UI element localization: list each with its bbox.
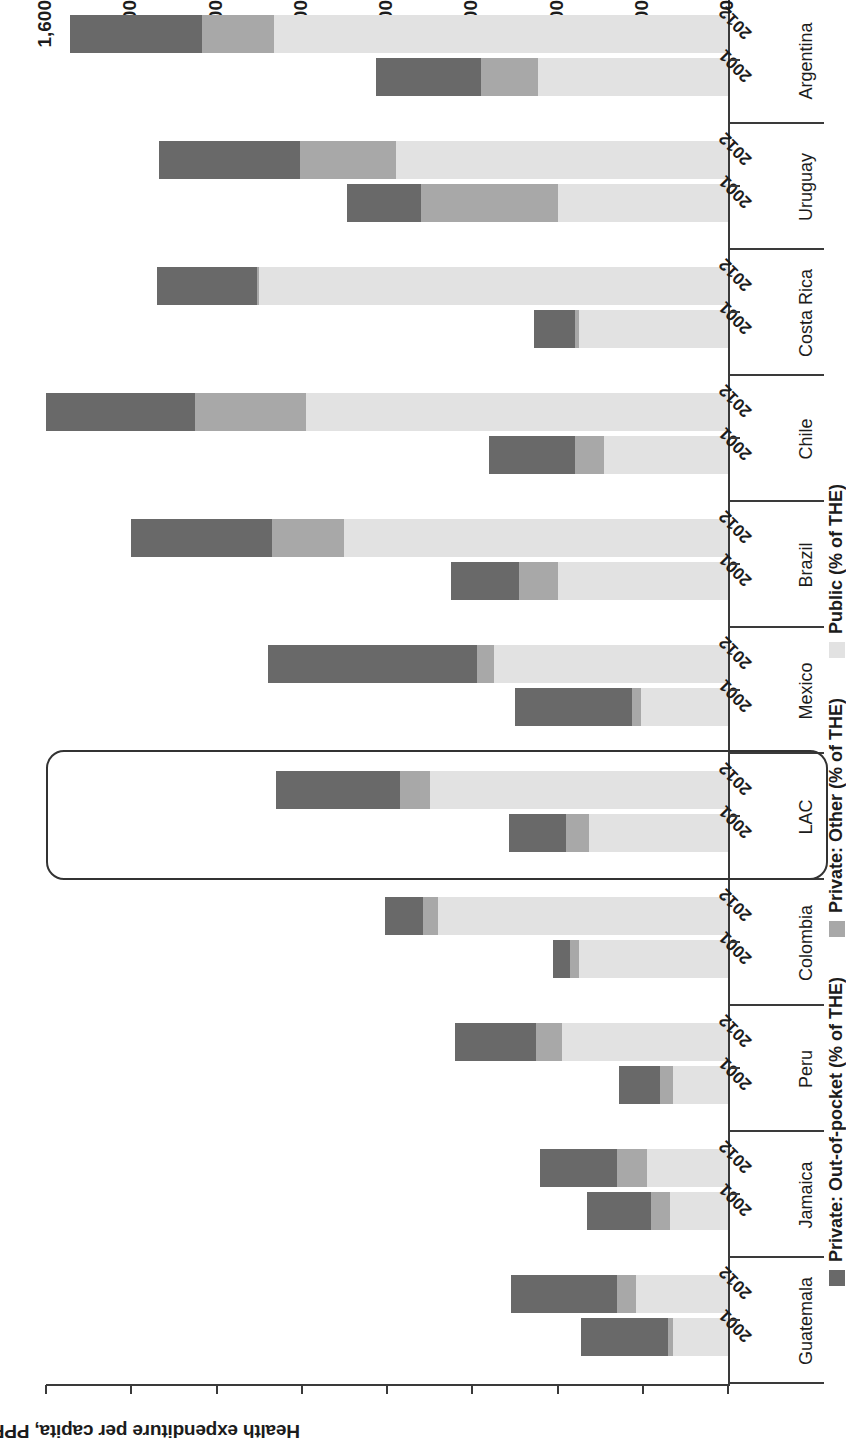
bar-segment-oth <box>272 519 344 557</box>
bar-segment-pub <box>579 940 728 978</box>
bar-segment-oth <box>423 897 438 935</box>
legend-item-other: Private: Other (% of THE) <box>826 698 847 937</box>
bar-segment-oop <box>157 267 257 305</box>
value-tick <box>45 1385 47 1394</box>
bar-segment-oth <box>660 1066 673 1104</box>
bar-segment-oth <box>481 58 538 96</box>
bar-segment-oth <box>668 1318 672 1356</box>
bar-segment-pub <box>558 184 729 222</box>
bar-segment-oop <box>534 310 574 348</box>
bar-segment-oop <box>159 141 300 179</box>
rotated-figure-wrapper: Health expenditure per capita, PPP 02004… <box>0 0 849 1456</box>
bar-segment-oop <box>587 1192 651 1230</box>
value-axis-title: Health expenditure per capita, PPP <box>0 1420 300 1442</box>
value-tick <box>727 1385 729 1394</box>
category-mid-tick <box>730 437 740 439</box>
country-label: Costa Rica <box>796 250 845 376</box>
chart-legend: Private: Out-of-pocket (% of THE) Privat… <box>826 484 847 1286</box>
bar-segment-oop <box>515 688 632 726</box>
legend-swatch-out-of-pocket-icon <box>829 1270 845 1286</box>
bar-segment-oth <box>617 1149 647 1187</box>
bar-segment-pub <box>558 562 729 600</box>
bar-segment-oth <box>202 15 274 53</box>
bar-segment-oop <box>268 645 477 683</box>
bar-segment-oop <box>385 897 423 935</box>
category-mid-tick <box>730 1067 740 1069</box>
bar-segment-oop <box>540 1149 617 1187</box>
value-tick <box>642 1385 644 1394</box>
chart-canvas: Health expenditure per capita, PPP 02004… <box>0 0 849 1456</box>
value-tick <box>130 1385 132 1394</box>
bar-segment-pub <box>604 436 728 474</box>
bar-segment-oop <box>276 771 400 809</box>
legend-label-out-of-pocket: Private: Out-of-pocket (% of THE) <box>826 977 847 1262</box>
value-tick <box>471 1385 473 1394</box>
bar-segment-pub <box>259 267 728 305</box>
bar-segment-oth <box>300 141 396 179</box>
value-tick <box>301 1385 303 1394</box>
legend-swatch-public-icon <box>829 642 845 658</box>
bar-segment-pub <box>647 1149 728 1187</box>
bar-segment-oth <box>536 1023 562 1061</box>
plot-area: Health expenditure per capita, PPP 02004… <box>0 0 849 1456</box>
country-label: Argentina <box>796 0 845 124</box>
bar-segment-oth <box>632 688 641 726</box>
bar-segment-pub <box>641 688 728 726</box>
bar-segment-oth <box>617 1275 636 1313</box>
bar-segment-oth <box>400 771 430 809</box>
bar-segment-oth <box>195 393 306 431</box>
category-mid-tick <box>730 1319 740 1321</box>
legend-item-public: Public (% of THE) <box>826 484 847 658</box>
bar-segment-oth <box>570 940 579 978</box>
bar-segment-pub <box>589 814 728 852</box>
legend-label-public: Public (% of THE) <box>826 484 847 634</box>
bar-segment-oop <box>511 1275 618 1313</box>
bar-segment-pub <box>562 1023 728 1061</box>
bar-segment-oop <box>581 1318 668 1356</box>
bar-segment-pub <box>344 519 728 557</box>
category-mid-tick <box>730 185 740 187</box>
bar-segment-pub <box>438 897 728 935</box>
bar-segment-oth <box>519 562 557 600</box>
category-mid-tick <box>730 59 740 61</box>
legend-swatch-other-icon <box>829 921 845 937</box>
bar-segment-oth <box>566 814 589 852</box>
bar-segment-oth <box>421 184 557 222</box>
legend-label-other: Private: Other (% of THE) <box>826 698 847 913</box>
bar-segment-oop <box>553 940 570 978</box>
bar-segment-pub <box>306 393 728 431</box>
category-mid-tick <box>730 689 740 691</box>
value-tick <box>386 1385 388 1394</box>
bar-segment-oop <box>509 814 567 852</box>
category-mid-tick <box>730 941 740 943</box>
bar-segment-pub <box>274 15 728 53</box>
bar-segment-pub <box>494 645 728 683</box>
bar-segment-pub <box>579 310 728 348</box>
bar-segment-oop <box>489 436 574 474</box>
bar-segment-oop <box>619 1066 659 1104</box>
bar-segment-oop <box>46 393 195 431</box>
category-mid-tick <box>730 563 740 565</box>
bar-segment-pub <box>396 141 728 179</box>
category-mid-tick <box>730 1193 740 1195</box>
bar-segment-oth <box>477 645 494 683</box>
bar-segment-oop <box>455 1023 536 1061</box>
bar-segment-oth <box>651 1192 670 1230</box>
bar-segment-oth <box>575 310 579 348</box>
bar-segment-oth <box>575 436 605 474</box>
bar-segment-oth <box>257 267 259 305</box>
category-mid-tick <box>730 311 740 313</box>
bar-segment-pub <box>430 771 728 809</box>
bar-segment-pub <box>636 1275 728 1313</box>
value-tick <box>557 1385 559 1394</box>
value-tick <box>216 1385 218 1394</box>
bars-layer <box>46 0 728 1384</box>
bar-segment-oop <box>376 58 481 96</box>
bar-segment-oop <box>347 184 422 222</box>
bar-segment-pub <box>538 58 728 96</box>
legend-item-out-of-pocket: Private: Out-of-pocket (% of THE) <box>826 977 847 1286</box>
bar-segment-oop <box>451 562 519 600</box>
bar-segment-oop <box>70 15 203 53</box>
category-mid-tick <box>730 815 740 817</box>
bar-segment-oop <box>131 519 272 557</box>
